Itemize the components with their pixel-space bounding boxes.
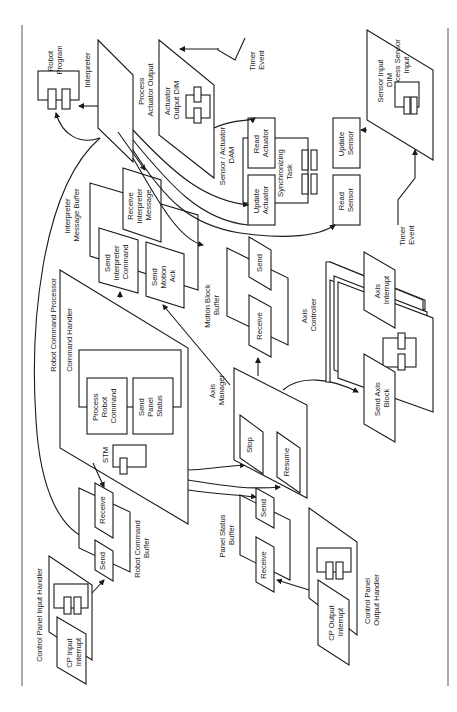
interpreter-message-buffer-label: Interpreter Message Buffer	[63, 188, 81, 242]
dim-module-icon	[404, 97, 410, 114]
cp-output-interrupt-label: CP Output Interrupt	[327, 603, 345, 640]
motion-buffer-receive-label: Receive	[255, 312, 264, 339]
timer-event-bottom-bolt	[398, 150, 415, 225]
actuator-output-dim-label: Actuator Output DIM	[163, 81, 181, 120]
process-actuator-output-label: Process Actuator Output	[137, 63, 155, 117]
robot-command-buffer-label: Robot Command Buffer	[133, 518, 151, 578]
control-panel-output-handler-label: Control Panel Output Handler	[363, 574, 381, 626]
robot-program-label: Robot Program	[46, 45, 64, 74]
dim-module-icon	[194, 87, 201, 102]
cp-output-module-frame	[317, 548, 351, 572]
timer-event-bottom-label: Timer Event	[398, 224, 416, 245]
axis-controller-label: Axis Controller	[300, 298, 318, 331]
update-actuator-label: Update Actuator	[252, 185, 270, 214]
rcb-send-label: Send	[98, 552, 107, 570]
architecture-diagram: Robot Program Interpreter Process Actuat…	[0, 0, 457, 712]
stm-label: STM	[101, 447, 110, 463]
command-handler-label: Command Handler	[65, 308, 74, 372]
program-module-icon	[48, 89, 56, 109]
axis-manager-to-send-axis-block-arrow	[283, 380, 358, 392]
cp-output-to-psb-receive-arrow	[277, 580, 309, 590]
psb-send-label: Send	[259, 499, 268, 517]
axis-module-icon	[398, 333, 405, 349]
psb-receive-label: Receive	[259, 551, 268, 578]
rcp-to-resume-arrow	[188, 480, 280, 488]
rcp-to-panel-send-arrow	[188, 490, 256, 497]
dim-module-icon	[411, 97, 417, 114]
robot-command-processor-label: Robot Command Processor	[49, 278, 58, 372]
interpreter-loop-arrow	[56, 113, 100, 140]
stop-label: Stop	[245, 437, 254, 453]
resume-label: Resume	[282, 448, 291, 476]
panel-status-buffer-label: Panel Status Buffer	[218, 512, 236, 557]
cp-output-module-icon	[326, 562, 333, 579]
rcp-to-stop-arrow	[188, 465, 245, 470]
cp-output-module-icon	[336, 562, 343, 579]
robot-program-block: Robot Program	[38, 45, 79, 109]
cp-input-module-icon	[74, 597, 81, 614]
motion-block-buffer-label: Motion Block Buffer	[203, 282, 221, 328]
rcb-receive-label: Receive	[98, 496, 107, 523]
timer-event-top-bolt	[218, 38, 245, 60]
process-sensor-input-block: Process Sensor Input Sensor Input DIM	[367, 30, 433, 160]
dim-module-icon	[194, 108, 201, 123]
motion-buffer-send-label: Send	[255, 254, 264, 272]
update-sensor-label: Update Sensor	[337, 130, 355, 157]
stm-block	[113, 445, 146, 467]
interpreter-block: Interpreter	[83, 40, 133, 162]
timer-event-top-label: Timer Event	[248, 49, 266, 70]
sensor-actuator-dam-label: Sensor / Actuator DAM	[218, 125, 236, 185]
program-module-icon	[62, 89, 70, 109]
axis-module-icon	[398, 354, 405, 370]
cp-input-interrupt-label: CP Input Interrupt	[65, 636, 83, 668]
interpreter-label: Interpreter	[83, 52, 92, 88]
process-actuator-output-block: Process Actuator Output Actuator Output …	[137, 40, 214, 178]
receive-interpreter-message-label: Receive Interpreter Message	[126, 186, 153, 223]
axis-manager-label: Axis Manager	[208, 375, 226, 405]
read-sensor-label: Read Sensor	[337, 187, 355, 212]
stm-module-icon	[120, 458, 127, 474]
control-panel-input-handler-label: Control Panel Input Handler	[35, 568, 44, 662]
send-panel-status-label: Send Panel Status	[137, 395, 164, 417]
cp-input-to-rcb-send-arrow	[92, 580, 104, 593]
cp-input-module-icon	[64, 597, 71, 614]
